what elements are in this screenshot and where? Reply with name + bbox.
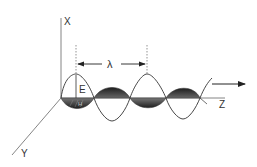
y-axis-label: Y	[21, 148, 28, 159]
y-axis-line	[12, 98, 61, 155]
z-axis-label: Z	[219, 99, 225, 110]
h-wave-tail	[200, 98, 207, 104]
h-wave-lobe-2	[94, 88, 130, 99]
em-wave-diagram: X Y Z E H λ	[0, 0, 257, 167]
h-field-label: H	[78, 101, 82, 107]
x-axis-label: X	[64, 16, 71, 27]
h-wave-lobe-3	[130, 98, 166, 108]
h-wave-lobe-4	[166, 88, 200, 98]
wavelength-label: λ	[107, 58, 113, 70]
e-field-label: E	[79, 84, 86, 95]
